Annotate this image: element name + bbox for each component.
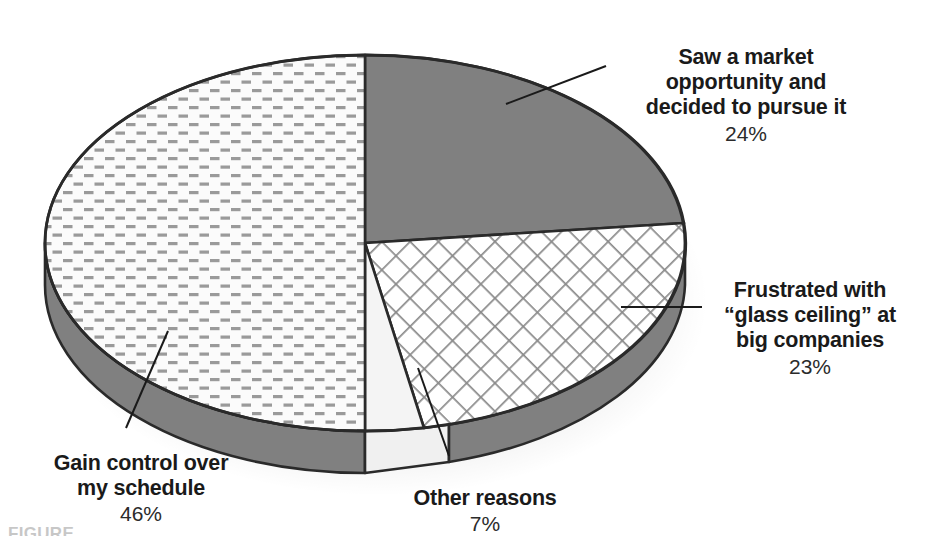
pie-chart-figure: Saw a market opportunity and decided to …	[0, 0, 925, 536]
slice-label-market-text: Saw a market opportunity and decided to …	[646, 45, 846, 119]
slice-label-ceiling-text: Frustrated with “glass ceiling” at big c…	[724, 278, 896, 352]
slice-label-ceiling-percent: 23%	[697, 355, 923, 380]
slice-label-other-percent: 7%	[379, 512, 591, 536]
slice-label-other-text: Other reasons	[413, 486, 556, 510]
slice-label-schedule-text: Gain control over my schedule	[54, 451, 229, 500]
slice-label-ceiling: Frustrated with “glass ceiling” at big c…	[697, 253, 923, 404]
pie-top-face	[45, 55, 686, 431]
slice-label-other: Other reasons 7%	[379, 461, 591, 536]
slice-label-market: Saw a market opportunity and decided to …	[596, 20, 896, 171]
slice-label-market-percent: 24%	[596, 122, 896, 147]
slice-label-schedule: Gain control over my schedule 46%	[8, 426, 274, 536]
figure-caption: FIGURE	[8, 524, 74, 536]
